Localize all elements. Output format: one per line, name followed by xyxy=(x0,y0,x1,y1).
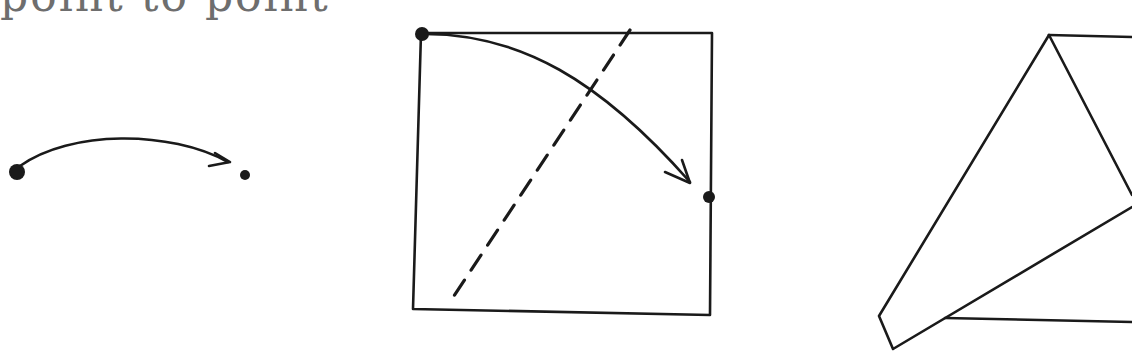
fold-diagram xyxy=(0,0,1132,351)
start-point xyxy=(9,164,25,180)
flap-right-edge xyxy=(1049,35,1132,195)
flap-left-edge xyxy=(879,35,1132,349)
figure-folded-result xyxy=(879,35,1132,349)
bottom-edge xyxy=(945,318,1132,322)
top-edge xyxy=(1049,35,1132,37)
fold-arrow xyxy=(425,34,690,182)
curved-arrow xyxy=(20,138,228,166)
figure-point-to-point xyxy=(9,138,250,180)
end-point xyxy=(240,170,250,180)
figure-square-fold xyxy=(413,27,715,315)
target-point xyxy=(703,191,715,203)
fold-line-dashed xyxy=(448,30,630,305)
